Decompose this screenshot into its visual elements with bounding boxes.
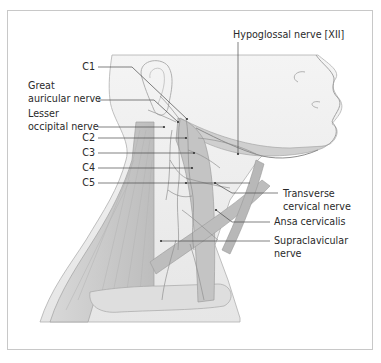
neck-anatomy-illustration xyxy=(0,0,381,363)
label-c5: C5 xyxy=(82,177,95,189)
label-c4: C4 xyxy=(82,162,95,174)
label-transverse-cervical-line2: cervical nerve xyxy=(283,201,351,213)
label-transverse-cervical-line1: Transverse xyxy=(283,188,335,200)
label-great-auricular-line2: auricular nerve xyxy=(28,93,101,105)
label-c3: C3 xyxy=(82,147,95,159)
label-great-auricular-line1: Great xyxy=(28,80,55,92)
label-supraclavicular-line1: Supraclavicular xyxy=(274,235,348,247)
label-hypoglossal-nerve: Hypoglossal nerve [XII] xyxy=(233,29,344,41)
label-c2: C2 xyxy=(82,132,95,144)
label-ansa-cervicalis: Ansa cervicalis xyxy=(274,216,346,228)
label-c1: C1 xyxy=(82,61,95,73)
label-supraclavicular-line2: nerve xyxy=(274,248,302,260)
label-lesser-occipital-line1: Lesser xyxy=(28,108,59,120)
